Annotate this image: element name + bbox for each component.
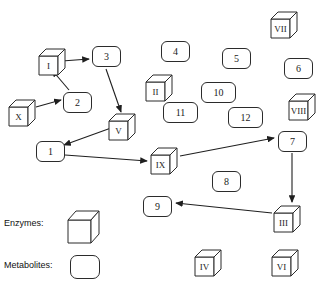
metabolite-node-12[interactable]: 12 xyxy=(228,107,263,128)
arrow-V-to-1 xyxy=(64,128,111,145)
enzyme-node-ix[interactable]: IX xyxy=(150,147,180,177)
enzyme-label: IX xyxy=(156,160,166,170)
enzyme-node-iv[interactable]: IV xyxy=(194,249,224,279)
enzyme-node-x[interactable]: X xyxy=(8,99,38,129)
metabolite-node-9[interactable]: 9 xyxy=(143,196,172,217)
enzyme-label: X xyxy=(15,112,22,122)
arrow-IX-to-7 xyxy=(180,138,274,156)
arrow-III-to-9 xyxy=(176,203,272,213)
metabolite-node-2[interactable]: 2 xyxy=(63,92,92,113)
arrow-1-to-IX xyxy=(65,155,147,161)
enzyme-node-vii[interactable]: VII xyxy=(270,11,300,41)
pathway-diagram: IXVIIVIIVIIIIXIIIIVVI 345621011121789 En… xyxy=(0,0,327,285)
metabolite-node-11[interactable]: 11 xyxy=(163,102,198,123)
arrow-X-to-2 xyxy=(36,100,61,107)
arrow-3-to-V xyxy=(106,69,121,112)
metabolite-node-5[interactable]: 5 xyxy=(222,48,251,69)
metabolite-node-6[interactable]: 6 xyxy=(284,58,313,79)
enzyme-label: II xyxy=(153,87,159,97)
enzyme-label: I xyxy=(47,61,50,71)
enzyme-node-viii[interactable]: VIII xyxy=(288,93,318,123)
enzyme-node-i[interactable]: I xyxy=(38,48,68,78)
enzyme-node-iii[interactable]: III xyxy=(273,205,303,235)
enzyme-node-v[interactable]: V xyxy=(108,113,138,143)
metabolite-node-8[interactable]: 8 xyxy=(212,171,241,192)
legend-metabolites-label: Metabolites: xyxy=(4,260,53,270)
enzyme-label: VI xyxy=(277,262,287,272)
metabolite-node-7[interactable]: 7 xyxy=(278,131,307,152)
enzyme-node-ii[interactable]: II xyxy=(145,74,175,104)
legend-enzymes-label: Enzymes: xyxy=(4,218,44,228)
enzyme-label: VII xyxy=(274,24,287,34)
enzyme-node-vi[interactable]: VI xyxy=(271,249,301,279)
legend-enzyme-cube-icon xyxy=(67,210,101,244)
metabolite-node-3[interactable]: 3 xyxy=(92,46,121,67)
metabolite-node-10[interactable]: 10 xyxy=(201,82,236,103)
metabolite-node-4[interactable]: 4 xyxy=(161,41,190,62)
enzyme-label: VIII xyxy=(291,106,307,116)
enzyme-label: III xyxy=(279,218,288,228)
enzyme-label: V xyxy=(115,126,122,136)
metabolite-node-1[interactable]: 1 xyxy=(36,141,65,162)
enzyme-label: IV xyxy=(200,262,210,272)
legend-metabolite-rect-icon xyxy=(70,255,100,279)
